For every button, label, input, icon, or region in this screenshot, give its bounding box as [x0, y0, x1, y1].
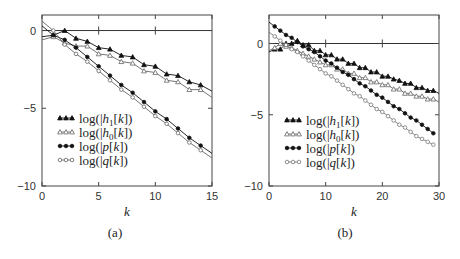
circle-marker-icon: [375, 107, 379, 111]
triangle-marker-icon: [187, 79, 192, 83]
y-tick-label: 0: [257, 38, 263, 50]
circle-marker-icon: [165, 122, 169, 126]
circle-marker-icon: [369, 103, 373, 107]
circle-marker-icon: [313, 50, 317, 54]
circle-marker-icon: [176, 131, 180, 135]
series-1: [42, 34, 212, 97]
circle-marker-icon: [392, 104, 396, 108]
panel-b-caption: (b): [230, 225, 460, 241]
triangle-marker-icon: [96, 51, 101, 55]
circle-marker-icon: [358, 94, 362, 98]
circle-marker-icon: [63, 43, 67, 47]
circle-marker-icon: [364, 84, 368, 88]
chart-a-plot: 0510150−5−10klog(|h1[k])log(|h0[k])log(|…: [0, 0, 230, 259]
circle-marker-icon: [347, 73, 351, 77]
x-tick-label: 10: [320, 190, 332, 202]
circle-marker-icon: [297, 146, 301, 150]
circle-marker-icon: [307, 59, 311, 63]
circle-marker-icon: [97, 69, 101, 73]
circle-marker-icon: [188, 136, 192, 140]
x-tick-label: 30: [433, 190, 445, 202]
circle-marker-icon: [318, 55, 322, 59]
series-0: [269, 38, 439, 93]
chart-b-plot: 01020300−5−10klog(|h1[k])log(|h0[k])log(…: [230, 0, 460, 259]
circle-marker-icon: [318, 67, 322, 71]
x-tick-label: 20: [376, 190, 388, 202]
circle-marker-icon: [392, 119, 396, 123]
circle-marker-icon: [335, 66, 339, 70]
circle-marker-icon: [386, 114, 390, 118]
circle-marker-icon: [64, 144, 68, 148]
x-tick-label: 5: [96, 190, 102, 202]
triangle-marker-icon: [119, 53, 124, 57]
circle-marker-icon: [432, 131, 436, 135]
circle-marker-icon: [381, 96, 385, 100]
legend-label: log(|p[k]): [79, 139, 128, 154]
circle-marker-icon: [386, 100, 390, 104]
circle-marker-icon: [142, 105, 146, 109]
panel-b: 01020300−5−10klog(|h1[k])log(|h0[k])log(…: [230, 0, 460, 259]
circle-marker-icon: [313, 63, 317, 67]
circle-marker-icon: [86, 60, 90, 64]
legend: log(|h1[k])log(|h0[k])log(|p[k])log(|q[k…: [58, 111, 133, 168]
circle-marker-icon: [335, 79, 339, 83]
circle-marker-icon: [301, 55, 305, 59]
legend-label: log(|q[k]): [306, 155, 355, 170]
circle-marker-icon: [284, 43, 288, 47]
circle-marker-icon: [432, 143, 436, 147]
circle-marker-icon: [154, 114, 158, 118]
circle-marker-icon: [290, 47, 294, 51]
circle-marker-icon: [296, 40, 300, 44]
circle-marker-icon: [52, 33, 56, 37]
circle-marker-icon: [403, 126, 407, 130]
circle-marker-icon: [285, 160, 289, 164]
circle-marker-icon: [120, 88, 124, 92]
circle-marker-icon: [64, 158, 68, 162]
circle-marker-icon: [74, 52, 78, 56]
circle-marker-icon: [74, 46, 78, 50]
circle-marker-icon: [420, 123, 424, 127]
circle-marker-icon: [291, 146, 295, 150]
circle-marker-icon: [398, 107, 402, 111]
triangle-marker-icon: [96, 45, 101, 49]
x-tick-label: 0: [39, 190, 45, 202]
circle-marker-icon: [415, 119, 419, 123]
triangle-marker-icon: [318, 60, 323, 64]
circle-marker-icon: [142, 100, 146, 104]
y-tick-label: −5: [250, 109, 263, 121]
legend-label: log(|q[k]): [79, 153, 128, 168]
triangle-marker-icon: [119, 59, 124, 63]
circle-marker-icon: [330, 62, 334, 66]
circle-marker-icon: [398, 123, 402, 127]
circle-marker-icon: [409, 130, 413, 134]
series-0: [42, 28, 212, 91]
circle-marker-icon: [341, 83, 345, 87]
x-tick-label: 0: [266, 190, 272, 202]
circle-marker-icon: [324, 72, 328, 76]
triangle-marker-icon: [312, 57, 317, 61]
circle-marker-icon: [273, 25, 277, 29]
panel-a-caption: (a): [0, 225, 230, 241]
circle-marker-icon: [131, 91, 135, 95]
circle-marker-icon: [403, 112, 407, 116]
legend: log(|h1[k])log(|h0[k])log(|p[k])log(|q[k…: [285, 113, 360, 170]
circle-marker-icon: [120, 83, 124, 87]
triangle-marker-icon: [391, 77, 396, 81]
circle-marker-icon: [108, 78, 112, 82]
circle-marker-icon: [291, 160, 295, 164]
circle-marker-icon: [58, 158, 62, 162]
circle-marker-icon: [108, 74, 112, 78]
circle-marker-icon: [352, 77, 356, 81]
circle-marker-icon: [52, 29, 56, 33]
circle-marker-icon: [409, 116, 413, 120]
circle-marker-icon: [86, 55, 90, 59]
x-tick-label: 15: [206, 190, 218, 202]
circle-marker-icon: [352, 92, 356, 96]
circle-marker-icon: [199, 148, 203, 152]
triangle-marker-icon: [164, 72, 169, 76]
circle-marker-icon: [375, 93, 379, 97]
circle-marker-icon: [358, 82, 362, 86]
circle-marker-icon: [364, 99, 368, 103]
circle-marker-icon: [188, 141, 192, 145]
circle-marker-icon: [296, 50, 300, 54]
